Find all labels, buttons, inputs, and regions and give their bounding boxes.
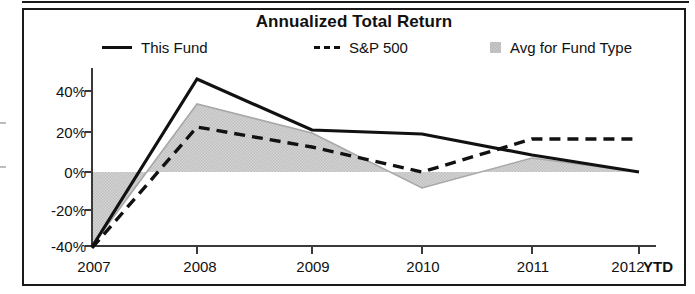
chart-plot-svg xyxy=(24,10,684,284)
series-area-avg-for-fund-type xyxy=(92,104,639,246)
y-tick-label: -40% xyxy=(28,238,86,255)
y-tick-label: 40% xyxy=(28,83,86,100)
top-divider-rule xyxy=(22,1,689,3)
x-tick-label: 2008 xyxy=(183,258,216,275)
x-tick-label: 2007 xyxy=(77,258,110,275)
scan-edge-artifact xyxy=(0,0,7,294)
y-tick-label: 0% xyxy=(28,164,86,181)
x-axis-ytd-label: YTD xyxy=(643,258,673,275)
x-tick-label: 2009 xyxy=(296,258,329,275)
x-tick-label: 2010 xyxy=(406,258,439,275)
y-tick-label: 20% xyxy=(28,124,86,141)
y-tick-label: -20% xyxy=(28,202,86,219)
y-axis-labels: 40% 20% 0% -20% -40% xyxy=(28,10,86,284)
scan-artifact-mark xyxy=(0,166,6,168)
plot-region: 40% 20% 0% -20% -40% 2007 2008 2009 2010… xyxy=(24,10,684,284)
x-axis-labels: 2007 2008 2009 2010 2011 2012 YTD xyxy=(24,258,684,284)
chart-panel: Annualized Total Return This Fund S&P 50… xyxy=(22,8,686,286)
x-tick-label: 2011 xyxy=(517,258,549,275)
y-axis-ticks xyxy=(85,91,92,246)
x-tick-label: 2012 xyxy=(611,258,644,275)
scan-artifact-mark xyxy=(0,122,6,124)
x-axis-ticks xyxy=(197,246,639,254)
